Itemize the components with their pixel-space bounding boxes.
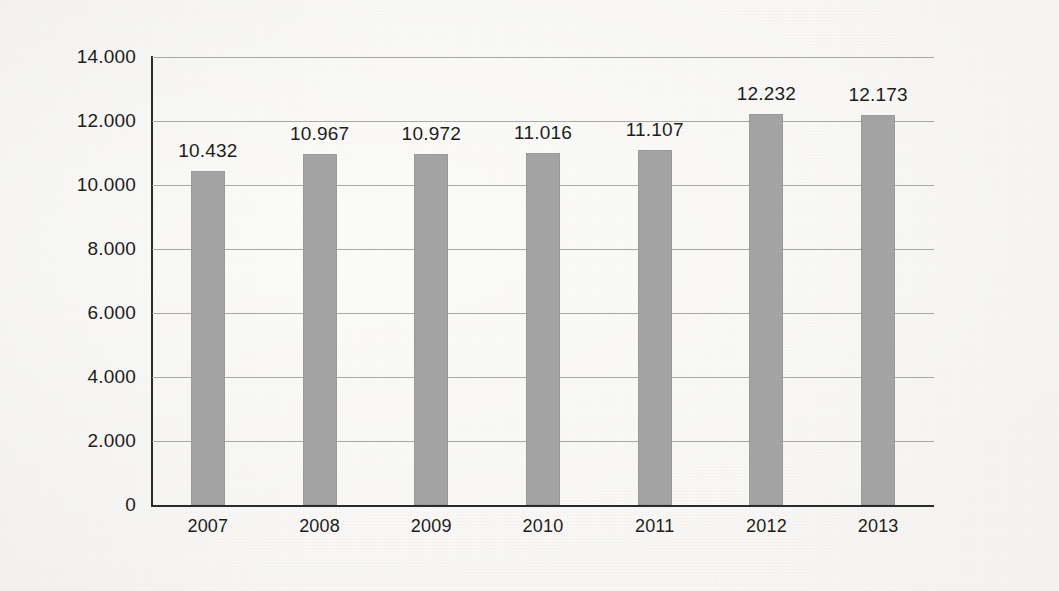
bar-value-label: 11.016: [514, 122, 572, 144]
y-axis-tick-label: 8.000: [87, 238, 136, 260]
axis-baseline: [152, 505, 934, 507]
bar-value-label: 12.232: [737, 83, 796, 105]
y-axis-tick-labels: 02.0004.0006.0008.00010.00012.00014.000: [0, 57, 136, 505]
x-axis-tick-label: 2007: [187, 516, 228, 537]
bar: [526, 153, 560, 506]
x-axis-tick-label: 2013: [858, 516, 899, 537]
y-axis-tick-label: 4.000: [87, 366, 136, 388]
bar-group: 12.173: [861, 57, 895, 505]
bar-value-label: 10.972: [402, 123, 461, 145]
bar: [749, 114, 783, 505]
bar-group: 11.016: [526, 57, 560, 505]
bar-value-label: 10.967: [290, 123, 349, 145]
bar: [414, 154, 448, 505]
bar: [638, 150, 672, 505]
y-axis-tick-label: 10.000: [77, 174, 136, 196]
y-axis-tick-label: 0: [125, 494, 136, 516]
x-axis-tick-label: 2012: [746, 516, 787, 537]
x-axis-tick-label: 2010: [523, 516, 564, 537]
y-axis-tick-label: 14.000: [77, 46, 136, 68]
y-axis-tick-label: 12.000: [77, 110, 136, 132]
bar-value-label: 11.107: [626, 119, 684, 141]
bar-value-label: 10.432: [178, 140, 237, 162]
bar-group: 10.972: [414, 57, 448, 505]
x-axis-tick-label: 2008: [299, 516, 340, 537]
bar: [303, 154, 337, 505]
bar: [191, 171, 225, 505]
bar-chart-figure: 02.0004.0006.0008.00010.00012.00014.000 …: [0, 0, 1059, 591]
y-axis-tick-label: 6.000: [87, 302, 136, 324]
y-axis-tick-label: 2.000: [87, 430, 136, 452]
bar: [861, 115, 895, 505]
x-axis-tick-label: 2011: [635, 516, 675, 537]
bar-group: 11.107: [638, 57, 672, 505]
plot-area: 10.43210.96710.97211.01611.10712.23212.1…: [152, 57, 934, 505]
bar-group: 10.967: [303, 57, 337, 505]
x-axis-tick-label: 2009: [411, 516, 452, 537]
bar-group: 10.432: [191, 57, 225, 505]
bar-group: 12.232: [749, 57, 783, 505]
bar-value-label: 12.173: [848, 84, 907, 106]
